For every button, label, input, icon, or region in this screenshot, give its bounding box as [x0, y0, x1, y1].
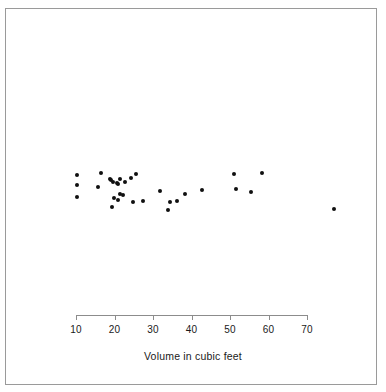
data-point — [249, 190, 253, 194]
data-point — [121, 193, 125, 197]
data-point — [110, 205, 114, 209]
data-point — [134, 172, 138, 176]
data-point — [129, 176, 133, 180]
data-point — [232, 172, 236, 176]
chart-screenshot: 10203040506070 Volume in cubic feet — [0, 0, 386, 392]
data-point — [175, 199, 179, 203]
data-point — [141, 199, 145, 203]
data-point — [118, 177, 122, 181]
data-point — [166, 208, 170, 212]
x-axis-title: Volume in cubic feet — [0, 350, 386, 362]
data-point — [75, 195, 79, 199]
data-point — [123, 180, 127, 184]
data-point — [332, 207, 336, 211]
plot-area — [0, 0, 386, 392]
data-point — [200, 188, 204, 192]
data-point — [116, 182, 120, 186]
data-point — [75, 173, 79, 177]
data-point — [183, 192, 187, 196]
data-point — [131, 200, 135, 204]
data-point — [116, 198, 120, 202]
data-point — [99, 171, 103, 175]
data-point — [260, 171, 264, 175]
data-point — [158, 189, 162, 193]
data-point — [168, 200, 172, 204]
data-point — [96, 185, 100, 189]
data-point — [75, 183, 79, 187]
data-point — [234, 187, 238, 191]
